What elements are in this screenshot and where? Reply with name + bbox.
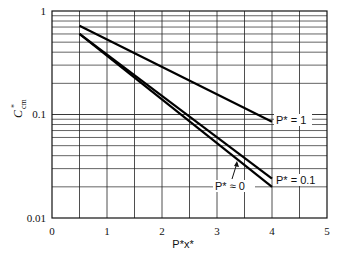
y-axis-label: C * cm	[10, 98, 28, 118]
series-label-p1: P* = 1	[274, 114, 312, 126]
chart-canvas: 1 0.1 0.01 0 1 2 3 4 5 P*x* C * cm P* = …	[0, 0, 343, 255]
y-tick-1: 1	[41, 5, 47, 17]
x-tick-0: 0	[49, 225, 55, 237]
series-line-2	[80, 34, 273, 187]
x-axis-label: P*x*	[172, 238, 194, 250]
series-label-p01-text: P* = 0.1	[276, 174, 315, 186]
series-label-p0: P* ≈ 0	[213, 161, 255, 192]
data-series	[80, 26, 273, 187]
x-tick-2: 2	[159, 225, 165, 237]
x-tick-1: 1	[104, 225, 110, 237]
y-axis-label-sup: *	[10, 104, 19, 108]
y-tick-0.01: 0.01	[27, 212, 46, 224]
y-tick-0.1: 0.1	[32, 108, 46, 120]
x-tick-4: 4	[269, 225, 275, 237]
x-tick-3: 3	[214, 225, 220, 237]
series-label-p0-text: P* ≈ 0	[215, 180, 245, 192]
arrowhead-icon	[234, 161, 239, 167]
y-axis-label-main: C	[11, 109, 25, 118]
series-label-p01: P* = 0.1	[274, 174, 326, 186]
series-label-p1-text: P* = 1	[276, 114, 306, 126]
x-tick-5: 5	[324, 225, 330, 237]
y-axis-label-sub: cm	[19, 98, 28, 109]
